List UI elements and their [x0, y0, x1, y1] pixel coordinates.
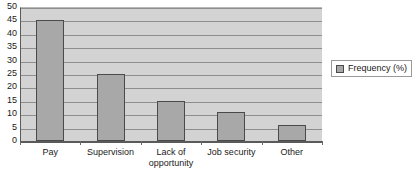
x-axis-line — [20, 141, 322, 142]
legend-label: Frequency (%) — [348, 64, 407, 73]
chart-legend: Frequency (%) — [331, 60, 412, 77]
y-tick-label-10: 10 — [7, 109, 17, 118]
x-axis-labels: PaySupervisionLack of opportunityJob sec… — [20, 147, 322, 175]
y-axis: 50454035302520151050 — [0, 0, 20, 148]
y-tick-label-5: 5 — [12, 123, 17, 132]
x-axis-label: Supervision — [80, 147, 140, 158]
x-axis-label: Job security — [201, 147, 261, 158]
bar — [97, 74, 125, 141]
x-tick — [80, 141, 81, 145]
bar — [36, 20, 64, 141]
x-tick — [322, 141, 323, 145]
y-tick-label-15: 15 — [7, 96, 17, 105]
bar — [278, 125, 306, 141]
y-tick-label-50: 50 — [7, 2, 17, 11]
x-tick — [201, 141, 202, 145]
y-tick-label-0: 0 — [12, 136, 17, 145]
legend-swatch-icon — [336, 65, 344, 73]
bar — [217, 112, 245, 141]
x-axis-label: Pay — [20, 147, 80, 158]
y-tick-label-35: 35 — [7, 42, 17, 51]
x-tick — [262, 141, 263, 145]
bar-chart: 50454035302520151050 PaySupervisionLack … — [0, 0, 417, 175]
bars-layer — [20, 7, 322, 141]
bar — [157, 101, 185, 141]
x-axis-label: Other — [262, 147, 322, 158]
y-tick-label-45: 45 — [7, 15, 17, 24]
y-tick-label-20: 20 — [7, 82, 17, 91]
x-tick — [141, 141, 142, 145]
x-tick — [20, 141, 21, 145]
y-tick-label-30: 30 — [7, 56, 17, 65]
y-tick-label-25: 25 — [7, 69, 17, 78]
gridline-0 — [21, 142, 322, 143]
x-axis-label: Lack of opportunity — [141, 147, 201, 169]
y-tick-label-40: 40 — [7, 29, 17, 38]
